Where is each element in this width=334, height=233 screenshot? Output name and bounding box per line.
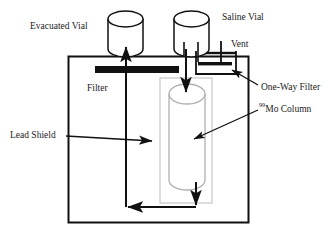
label-evacuated-vial: Evacuated Vial <box>30 21 88 31</box>
label-saline-vial: Saline Vial <box>222 12 264 22</box>
figure-canvas: Evacuated Vial Saline Vial Vent Filter O… <box>0 0 334 233</box>
label-mo-column-text: Mo Column <box>265 104 311 114</box>
lead-shield-box <box>69 57 249 223</box>
label-one-way-filter: One-Way Filter <box>261 82 321 92</box>
one-way-filter-leader <box>232 70 258 85</box>
label-lead-shield: Lead Shield <box>10 130 56 140</box>
lead-shield-leader <box>66 136 152 141</box>
generator-schematic-diagram: Evacuated Vial Saline Vial Vent Filter O… <box>0 0 334 233</box>
saline-vial-shape <box>174 11 209 57</box>
one-way-filter-bar <box>198 62 232 65</box>
label-filter: Filter <box>87 83 108 93</box>
filter-bar <box>95 66 179 73</box>
label-mo-column: 99Mo Column <box>259 102 312 114</box>
label-vent: Vent <box>231 39 249 49</box>
